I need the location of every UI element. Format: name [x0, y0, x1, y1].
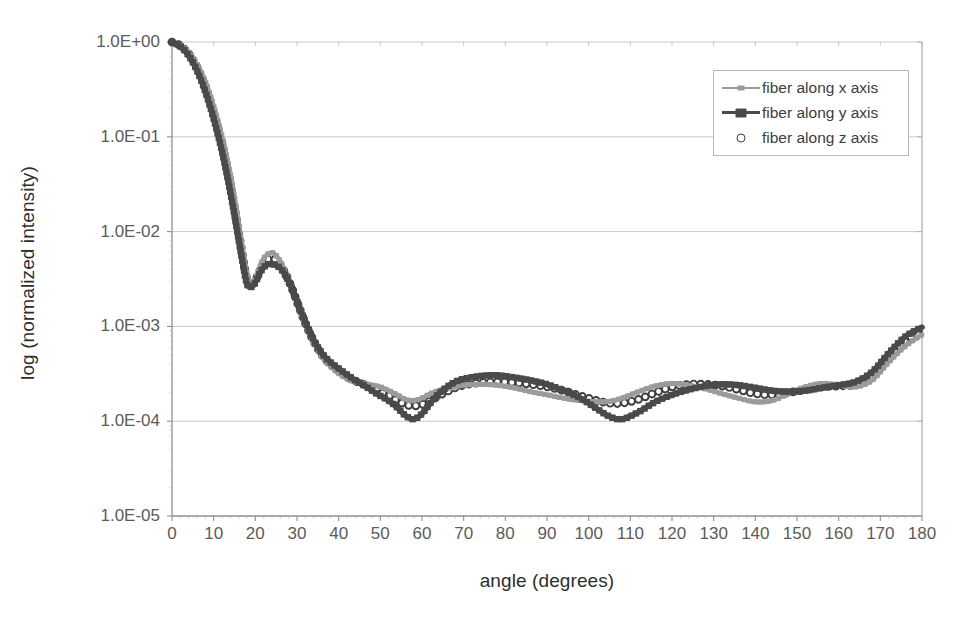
legend-label-y: fiber along y axis	[762, 104, 878, 122]
chart-figure: log (normalized intensity) angle (degree…	[0, 0, 965, 621]
legend-label-z: fiber along z axis	[762, 129, 878, 147]
legend-label-x: fiber along x axis	[762, 79, 878, 97]
legend-item-x: fiber along x axis	[720, 75, 902, 100]
legend-item-z: fiber along z axis	[720, 125, 902, 150]
legend-key-z-icon	[720, 128, 762, 148]
legend-item-y: fiber along y axis	[720, 100, 902, 125]
legend-key-x-icon	[720, 78, 762, 98]
legend-key-y-icon	[720, 103, 762, 123]
chart-legend: fiber along x axis fiber along y axis fi…	[713, 70, 909, 156]
